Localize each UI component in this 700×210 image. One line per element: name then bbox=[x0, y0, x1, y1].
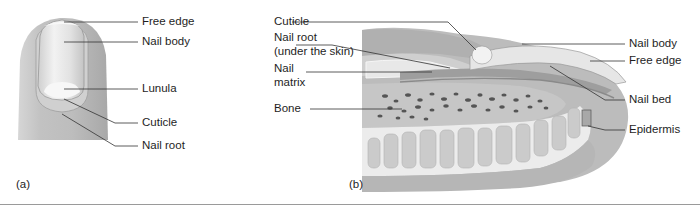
label-bone-b: Bone bbox=[274, 102, 301, 115]
bottom-divider bbox=[0, 204, 700, 205]
label-cuticle-b: Cuticle bbox=[274, 15, 309, 28]
label-nail-matrix-b-2: matrix bbox=[274, 76, 305, 89]
label-nail-body-b: Nail body bbox=[629, 37, 677, 50]
label-free-edge-a: Free edge bbox=[142, 15, 194, 28]
label-nail-root-a: Nail root bbox=[142, 139, 185, 152]
epidermis-marker bbox=[582, 110, 591, 126]
label-nail-root-b-2: (under the skin) bbox=[274, 45, 354, 58]
panel-a-letter: (a) bbox=[16, 178, 30, 190]
label-lunula-a: Lunula bbox=[142, 82, 177, 95]
label-nail-bed-b: Nail bed bbox=[629, 93, 671, 106]
panel-b-illustration bbox=[362, 28, 628, 192]
nail-anatomy-figure: Free edge Nail body Lunula Cuticle Nail … bbox=[0, 0, 700, 210]
label-nail-body-a: Nail body bbox=[142, 35, 190, 48]
label-cuticle-a: Cuticle bbox=[142, 116, 177, 129]
label-epidermis-b: Epidermis bbox=[629, 123, 680, 136]
panel-b-letter: (b) bbox=[349, 178, 363, 190]
label-free-edge-b: Free edge bbox=[629, 54, 681, 67]
label-nail-root-b-1: Nail root bbox=[274, 31, 317, 44]
label-nail-matrix-b-1: Nail bbox=[274, 62, 294, 75]
